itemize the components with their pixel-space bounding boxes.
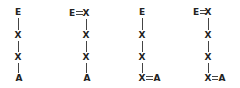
atom-e: E xyxy=(69,9,75,18)
single-bond xyxy=(208,18,209,30)
single-bond xyxy=(86,19,87,30)
single-bond xyxy=(142,63,143,73)
single-bond xyxy=(208,63,209,73)
single-bond xyxy=(142,41,143,52)
atom-x: X xyxy=(205,53,212,62)
atom-x: X xyxy=(205,8,212,17)
single-bond xyxy=(208,41,209,52)
atom-x: X xyxy=(139,53,146,62)
atom-x: X xyxy=(139,74,146,83)
atom-e: E xyxy=(193,8,199,17)
single-bond xyxy=(18,63,19,73)
single-bond xyxy=(18,41,19,52)
atom-x: X xyxy=(205,74,212,83)
atom-x: X xyxy=(139,31,146,40)
atom-e: E xyxy=(139,8,145,17)
atom-x: X xyxy=(15,31,22,40)
atom-x: X xyxy=(83,9,90,18)
atom-x: X xyxy=(83,53,90,62)
single-bond xyxy=(86,63,87,73)
atom-x: X xyxy=(83,31,90,40)
atom-e: E xyxy=(15,8,21,17)
atom-a: A xyxy=(219,74,226,83)
atom-a: A xyxy=(154,74,161,83)
atom-x: X xyxy=(205,31,212,40)
atom-a: A xyxy=(84,74,91,83)
atom-x: X xyxy=(15,53,22,62)
single-bond xyxy=(86,41,87,52)
atom-a: A xyxy=(16,74,23,83)
double-bond xyxy=(146,76,153,80)
single-bond xyxy=(18,18,19,30)
single-bond xyxy=(142,18,143,30)
double-bond xyxy=(212,76,218,80)
